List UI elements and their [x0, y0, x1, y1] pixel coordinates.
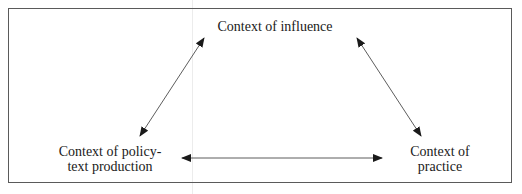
arrow-influence-practice: [357, 38, 421, 136]
arrows-layer: [0, 0, 522, 194]
arrow-influence-policy: [140, 38, 204, 136]
